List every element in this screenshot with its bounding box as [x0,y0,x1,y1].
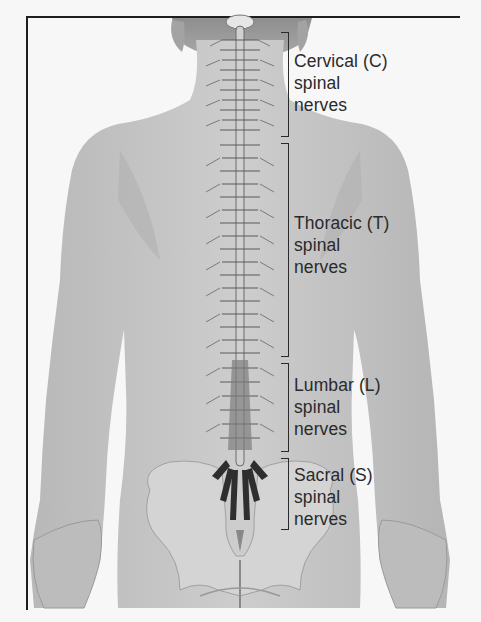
bracket-sacral [281,458,289,530]
cauda-equina [228,360,252,450]
label-lumbar-line-2: spinal [294,396,381,418]
label-sacral-line-2: spinal [294,486,373,508]
label-cervical-line-3: nerves [294,94,388,116]
label-cervical-line-2: spinal [294,72,388,94]
label-cervical: Cervical (C) spinal nerves [294,50,388,116]
label-sacral-line-3: nerves [294,508,373,530]
label-cervical-line-1: Cervical (C) [294,50,388,72]
label-lumbar-line-3: nerves [294,418,381,440]
label-sacral-line-1: Sacral (S) [294,464,373,486]
back-illustration [0,0,481,622]
left-ear [171,20,185,52]
label-sacral: Sacral (S) spinal nerves [294,464,373,530]
label-lumbar-line-1: Lumbar (L) [294,374,381,396]
label-thoracic: Thoracic (T) spinal nerves [294,212,390,278]
bracket-lumbar [281,363,289,452]
bracket-thoracic [281,143,289,357]
label-thoracic-line-2: spinal [294,234,390,256]
bracket-cervical [281,32,289,137]
label-thoracic-line-1: Thoracic (T) [294,212,390,234]
label-lumbar: Lumbar (L) spinal nerves [294,374,381,440]
label-thoracic-line-3: nerves [294,256,390,278]
right-ear [297,20,308,52]
spinal-nerves-figure: Cervical (C) spinal nerves Thoracic (T) … [0,0,481,622]
